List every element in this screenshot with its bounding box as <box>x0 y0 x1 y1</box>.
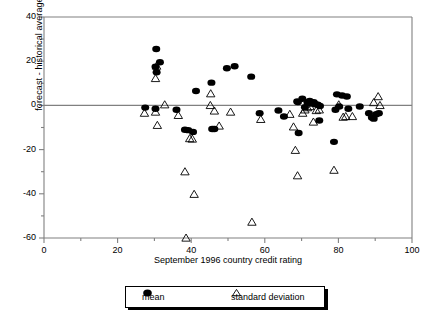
y-tick-label: 40 <box>26 11 36 21</box>
data-point-mean <box>344 106 352 112</box>
y-tick-label: 20 <box>26 55 36 65</box>
data-point-standard-deviation <box>289 123 297 130</box>
x-tick-label: 0 <box>42 245 47 255</box>
plot-canvas <box>0 0 427 319</box>
data-point-standard-deviation <box>190 190 198 197</box>
data-point-standard-deviation <box>153 121 161 128</box>
data-point-standard-deviation <box>257 115 265 122</box>
data-point-mean <box>192 88 200 94</box>
data-point-mean <box>231 63 239 69</box>
data-point-mean <box>153 69 161 75</box>
data-point-standard-deviation <box>248 218 256 225</box>
chart-legend: mean standard deviation <box>125 286 325 308</box>
data-point-standard-deviation <box>293 172 301 179</box>
legend-item-standard-deviation: standard deviation <box>231 287 305 307</box>
data-point-mean <box>330 139 338 145</box>
data-point-standard-deviation <box>330 166 338 173</box>
data-point-mean <box>280 113 288 119</box>
data-point-mean <box>247 73 255 79</box>
data-point-mean <box>356 103 364 109</box>
data-point-standard-deviation <box>291 146 299 153</box>
data-point-standard-deviation <box>151 74 159 81</box>
x-tick-label: 80 <box>333 245 343 255</box>
series-standard-deviation <box>140 62 384 241</box>
data-point-mean <box>375 110 383 116</box>
data-point-mean <box>223 65 231 71</box>
data-point-mean <box>152 46 160 52</box>
x-tick-label: 100 <box>405 245 420 255</box>
data-point-mean <box>343 93 351 99</box>
data-point-standard-deviation <box>226 108 234 115</box>
y-tick-label: 0 <box>31 99 36 109</box>
data-point-mean <box>274 107 282 113</box>
x-axis-label: September 1996 country credit rating <box>44 255 412 265</box>
x-tick-label: 20 <box>113 245 123 255</box>
data-point-mean <box>189 129 197 135</box>
data-point-standard-deviation <box>207 90 215 97</box>
data-point-mean <box>256 110 264 116</box>
data-point-standard-deviation <box>181 168 189 175</box>
data-point-standard-deviation <box>374 93 382 100</box>
legend-filled-circle-icon <box>142 287 153 298</box>
data-point-mean <box>172 107 180 113</box>
x-tick-label: 40 <box>186 245 196 255</box>
y-tick-label: -40 <box>23 188 36 198</box>
x-tick-label: 60 <box>260 245 270 255</box>
data-point-mean <box>295 130 303 136</box>
legend-open-triangle-icon <box>231 287 242 298</box>
y-tick-label: -20 <box>23 144 36 154</box>
legend-label-standard-deviation: standard deviation <box>231 292 305 302</box>
scatter-chart: forecast - historical average September … <box>0 0 427 319</box>
data-point-mean <box>207 79 215 85</box>
data-point-standard-deviation <box>161 101 169 108</box>
y-tick-label: -60 <box>23 232 36 242</box>
series-mean <box>141 46 383 145</box>
legend-item-mean: mean <box>142 287 165 307</box>
y-axis-label: forecast - historical average <box>34 0 48 147</box>
